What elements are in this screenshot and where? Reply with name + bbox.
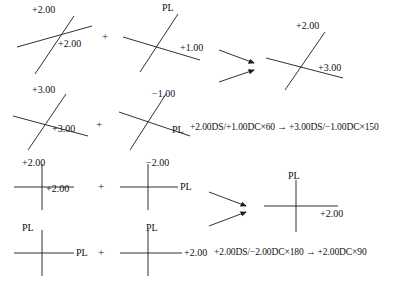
- formula-example-2: +2.00DS/−2.00DC×180 → +2.00DC×90: [214, 247, 367, 257]
- plus-operator-row2: +: [96, 118, 102, 130]
- cross-3a-top-label: +2.00: [22, 157, 45, 168]
- result-arrows: [208, 190, 260, 232]
- cross-1b-top-label: PL: [162, 2, 174, 13]
- cross-lines: [10, 92, 102, 152]
- cross-3b-right-label: PL: [180, 181, 192, 192]
- cross-2a-lower-right-label: +3.00: [52, 123, 75, 134]
- arrow-pair-2: [208, 190, 260, 236]
- optical-cross-2a: [10, 92, 102, 152]
- optical-cross-1r: [263, 30, 355, 92]
- cross-1a-top-label: +2.00: [32, 4, 55, 15]
- plus-operator-row3: +: [98, 180, 104, 192]
- cross-1r-top-label: +2.00: [296, 20, 319, 31]
- cross-4b-right-label: +2.00: [184, 247, 207, 258]
- cross-3r-top-label: PL: [288, 170, 300, 181]
- plus-operator-row1: +: [102, 30, 108, 42]
- cross-2a-top-label: +3.00: [32, 84, 55, 95]
- cross-4a-right-label: PL: [76, 247, 88, 258]
- plus-operator-row4: +: [98, 246, 104, 258]
- figure-canvas: +2.00 +2.00 + PL +1.00 +2.00 +3.00: [0, 0, 404, 289]
- cross-3r-right-label: +2.00: [320, 208, 343, 219]
- cross-1b-lower-right-label: +1.00: [180, 42, 203, 53]
- cross-2b-top-label: −1.00: [152, 88, 175, 99]
- cross-4a-top-label: PL: [22, 222, 34, 233]
- formula-example-1: +2.00DS/+1.00DC×60 → +3.00DS/−1.00DC×150: [190, 122, 379, 132]
- cross-lines: [262, 178, 352, 234]
- arrow-pair-1: [218, 48, 266, 92]
- result-arrows: [218, 48, 266, 88]
- cross-1r-lower-right-label: +3.00: [318, 62, 341, 73]
- cross-lines: [263, 30, 355, 92]
- cross-3b-top-label: −2.00: [146, 157, 169, 168]
- optical-cross-3r: [262, 178, 352, 234]
- cross-3a-right-label: +2.00: [46, 183, 69, 194]
- cross-2b-lower-right-label: PL: [172, 124, 184, 135]
- cross-4b-top-label: PL: [146, 222, 158, 233]
- cross-1a-lower-right-label: +2.00: [58, 38, 81, 49]
